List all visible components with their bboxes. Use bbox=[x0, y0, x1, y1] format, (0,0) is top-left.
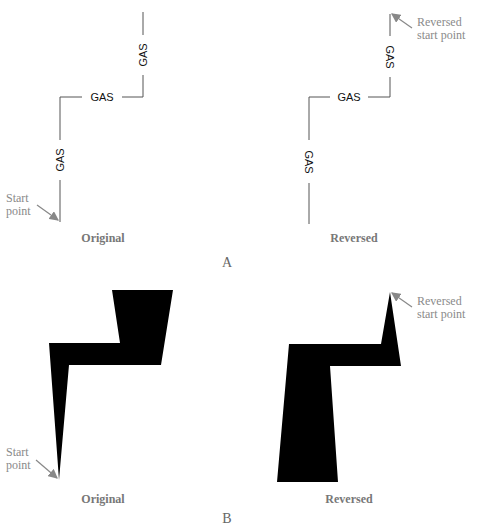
panel-a-reversed bbox=[309, 14, 390, 224]
arrow-icon bbox=[37, 205, 58, 220]
start-point-label: Start bbox=[6, 445, 29, 459]
shape-reversed bbox=[277, 292, 401, 482]
start-point-label: point bbox=[6, 204, 31, 218]
panel-label-b: B bbox=[222, 511, 231, 526]
arrow-icon bbox=[392, 14, 412, 28]
gas-label: GAS bbox=[54, 148, 66, 171]
reversed-start-label: Reversed bbox=[417, 15, 462, 29]
gas-label: GAS bbox=[337, 91, 360, 103]
caption-original: Original bbox=[81, 492, 125, 506]
arrow-icon bbox=[392, 293, 412, 307]
start-point-label: point bbox=[6, 458, 31, 472]
gas-label: GAS bbox=[303, 150, 315, 173]
panel-label-a: A bbox=[222, 255, 233, 270]
caption-original: Original bbox=[81, 231, 125, 245]
reversed-start-label: Reversed bbox=[417, 294, 462, 308]
linetype-diagram: GAS GAS GAS Start point Original GAS GAS… bbox=[0, 0, 477, 530]
gas-label: GAS bbox=[90, 91, 113, 103]
arrow-icon bbox=[36, 460, 57, 478]
gas-label: GAS bbox=[137, 43, 149, 66]
gas-label: GAS bbox=[384, 45, 396, 68]
reversed-start-label: start point bbox=[417, 307, 466, 321]
panel-a-original bbox=[60, 12, 143, 222]
reversed-start-label: start point bbox=[417, 28, 466, 42]
caption-reversed: Reversed bbox=[325, 492, 373, 506]
start-point-label: Start bbox=[6, 191, 29, 205]
caption-reversed: Reversed bbox=[330, 231, 378, 245]
shape-original bbox=[49, 290, 173, 480]
